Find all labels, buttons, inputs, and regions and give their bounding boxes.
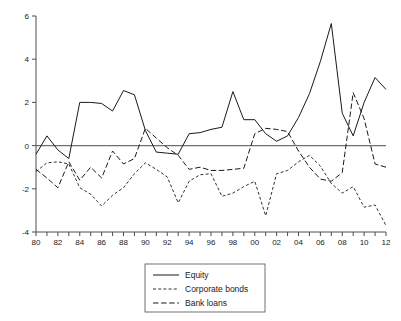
series-lines <box>36 24 386 226</box>
x-axis-tick-label: 88 <box>119 238 128 247</box>
x-axis-tick-label: 84 <box>75 238 84 247</box>
x-axis-tick-label: 08 <box>338 238 347 247</box>
series-line-equity <box>36 24 386 159</box>
chart-legend: EquityCorporate bondsBank loans <box>145 264 265 312</box>
y-axis-tick-label: -4 <box>22 228 30 237</box>
legend-label-equity: Equity <box>185 270 209 280</box>
legend-label-bank-loans: Bank loans <box>185 298 227 308</box>
x-axis-tick-label: 06 <box>316 238 325 247</box>
x-axis-tick-label: 04 <box>294 238 303 247</box>
y-axis-tick-label: 4 <box>25 55 30 64</box>
x-axis-tick-label: 98 <box>228 238 237 247</box>
x-axis-tick-label: 86 <box>97 238 106 247</box>
chart-container: -4-20246 8082848688909294969800020406081… <box>0 0 401 321</box>
series-line-corporate-bonds <box>36 155 386 225</box>
y-axis-tick-label: -2 <box>22 185 30 194</box>
x-axis-tick-label: 82 <box>53 238 62 247</box>
y-axis-tick-label: 0 <box>25 142 30 151</box>
y-axis-tick-label: 2 <box>25 98 30 107</box>
x-axis: 8082848688909294969800020406081012 <box>32 232 391 247</box>
x-axis-tick-label: 96 <box>207 238 216 247</box>
x-axis-tick-label: 94 <box>185 238 194 247</box>
y-axis-tick-label: 6 <box>25 12 30 21</box>
line-chart: -4-20246 8082848688909294969800020406081… <box>0 0 401 321</box>
x-axis-tick-label: 90 <box>141 238 150 247</box>
x-axis-tick-label: 02 <box>272 238 281 247</box>
x-axis-tick-label: 92 <box>163 238 172 247</box>
legend-label-corporate-bonds: Corporate bonds <box>185 284 248 294</box>
y-axis: -4-20246 <box>22 12 36 237</box>
x-axis-tick-label: 80 <box>32 238 41 247</box>
x-axis-tick-label: 12 <box>382 238 391 247</box>
x-axis-tick-label: 00 <box>250 238 259 247</box>
x-axis-tick-label: 10 <box>360 238 369 247</box>
